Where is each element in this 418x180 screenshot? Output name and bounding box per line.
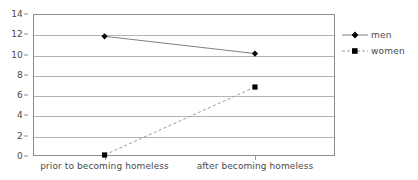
data-point-marker-square[interactable] — [252, 84, 257, 89]
legend-item-women[interactable]: women — [342, 43, 416, 59]
legend-item-men[interactable]: men — [342, 27, 416, 43]
series-line-women — [105, 87, 255, 155]
line-chart: 02468101214 prior to becoming homelessaf… — [0, 0, 418, 180]
data-point-marker-diamond[interactable] — [101, 33, 107, 39]
legend-marker-square-icon — [342, 45, 368, 57]
legend-label-women: women — [368, 46, 405, 56]
data-point-marker-diamond[interactable] — [252, 50, 258, 56]
data-point-marker-square[interactable] — [102, 152, 107, 157]
series-line-men — [105, 36, 255, 53]
legend-label-men: men — [368, 30, 392, 40]
legend: men women — [342, 27, 416, 59]
legend-marker-diamond-icon — [342, 29, 368, 41]
